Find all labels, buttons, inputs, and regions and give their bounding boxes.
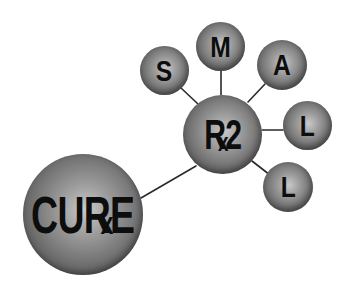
satellite-m: M: [196, 22, 245, 71]
satellite-l-lower-letter: L: [280, 172, 295, 202]
cure-x-letter: x: [101, 207, 113, 239]
satellite-a-letter: A: [273, 50, 291, 80]
satellite-s: S: [140, 46, 189, 95]
rx-symbol: R x: [204, 114, 225, 156]
satellite-l-upper-letter: L: [300, 111, 315, 141]
cure-wordmark: CU R x E: [31, 189, 134, 241]
connector-cure-hub: [141, 166, 196, 198]
satellite-a: A: [257, 40, 307, 90]
rx2-wordmark: R x 2: [204, 114, 241, 156]
rx2-x-letter: x: [218, 129, 228, 155]
cure-rx-symbol: R x: [84, 189, 110, 241]
satellite-l-upper: L: [283, 101, 332, 150]
cure-sphere: CU R x E: [23, 154, 143, 275]
satellite-l-lower: L: [263, 162, 313, 212]
satellite-m-letter: M: [210, 32, 231, 62]
satellite-s-letter: S: [156, 56, 172, 86]
cure-text-end: E: [110, 189, 134, 241]
rx2-hub-sphere: R x 2: [183, 95, 262, 174]
connector-hub-s: [181, 88, 198, 104]
connector-hub-a: [248, 84, 265, 102]
cure-text-start: CU: [31, 189, 84, 241]
curerx2-small-logo: CU R x E R x 2 S M A L L: [0, 0, 353, 301]
